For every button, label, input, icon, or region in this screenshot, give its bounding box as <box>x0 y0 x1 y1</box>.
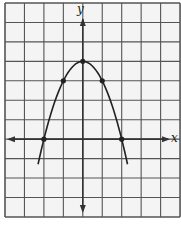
plot-background <box>5 3 180 217</box>
parabola-graph: y x <box>0 0 181 228</box>
y-axis-label: y <box>76 2 84 16</box>
x-axis-label: x <box>171 131 178 145</box>
